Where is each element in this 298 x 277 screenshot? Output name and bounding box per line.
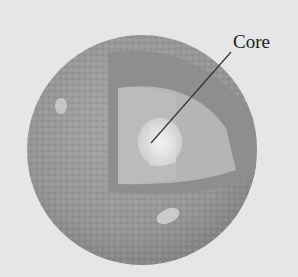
cutaway-wedge <box>108 50 256 194</box>
core-label: Core <box>233 32 270 51</box>
